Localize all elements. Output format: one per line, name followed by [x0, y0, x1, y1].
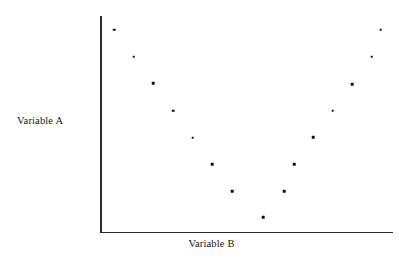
data-point: [370, 55, 373, 58]
data-point: [283, 190, 286, 193]
data-point: [132, 55, 135, 58]
data-point: [231, 190, 234, 193]
scatter-plot-figure: Variable A Variable B: [0, 0, 399, 258]
data-point: [293, 163, 296, 166]
data-point: [351, 83, 354, 86]
data-point: [211, 163, 214, 166]
y-axis-label: Variable A: [17, 115, 63, 126]
data-point: [152, 82, 155, 85]
x-axis-label: Variable B: [0, 238, 399, 249]
data-point: [312, 136, 315, 139]
data-point: [191, 136, 194, 139]
plot-area: [0, 0, 399, 258]
data-point: [113, 28, 116, 31]
data-point: [331, 109, 334, 112]
data-point: [262, 216, 265, 219]
data-point: [380, 28, 383, 31]
data-point: [172, 109, 175, 112]
